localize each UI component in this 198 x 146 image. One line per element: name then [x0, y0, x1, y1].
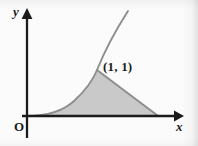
shaded-region	[27, 70, 157, 116]
origin-label: O	[14, 120, 24, 133]
y-axis-label: y	[13, 5, 19, 18]
y-axis-arrowhead	[22, 8, 33, 19]
point-label: (1, 1)	[103, 60, 132, 73]
plot-canvas	[0, 0, 198, 146]
x-axis-label: x	[176, 120, 183, 133]
figure-container: y x O (1, 1)	[0, 0, 198, 146]
